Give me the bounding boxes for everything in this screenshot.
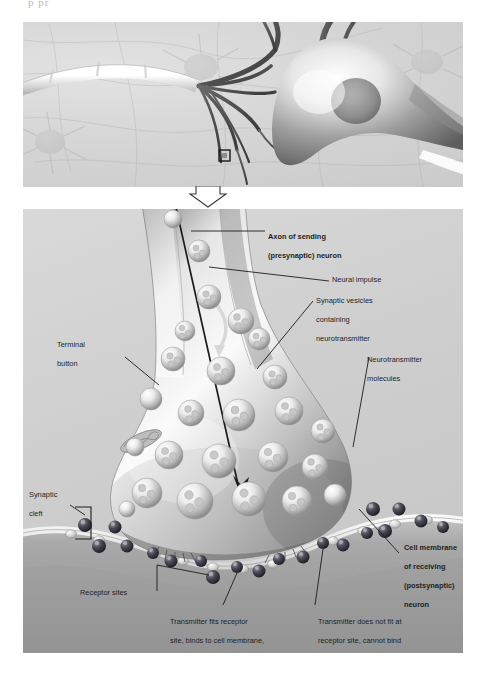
label-axon-line2: (presynaptic) neuron (268, 251, 342, 260)
label-cell-membrane-line1: Cell membrane (404, 543, 457, 552)
label-cell-membrane-line2: of receiving (404, 562, 445, 571)
label-cell-membrane-line3: (postsynaptic) (404, 581, 455, 590)
label-cell-membrane: Cell membrane of receiving (postsynaptic… (404, 534, 457, 609)
label-cell-membrane-line4: neuron (404, 600, 429, 609)
label-neurotransmitter-molecules-line1: Neurotransmitter (367, 355, 422, 364)
label-transmitter-fits-line1: Transmitter fits receptor (170, 617, 248, 626)
synapse-illustration (23, 209, 463, 653)
label-receptor-sites: Receptor sites (80, 588, 127, 597)
label-synaptic-vesicles-line1: Synaptic vesicles (316, 296, 373, 305)
label-transmitter-does-not-fit-line1: Transmitter does not fit at (318, 617, 402, 626)
label-transmitter-fits: Transmitter fits receptor site, binds to… (170, 608, 264, 653)
label-transmitter-does-not-fit-line2: receptor site, cannot bind (318, 636, 401, 645)
top-caption-fragment: p pr (28, 0, 49, 8)
label-neurotransmitter-molecules: Neurotransmitter molecules (367, 346, 422, 384)
label-terminal-button: Terminal button (57, 331, 85, 369)
panel-neuron-overview (23, 22, 463, 187)
dendrite-branches (199, 22, 285, 184)
panel-synapse-detail: Axon of sending (presynaptic) neuron Neu… (23, 209, 463, 653)
label-axon: Axon of sending (presynaptic) neuron (268, 223, 342, 261)
label-transmitter-fits-line2: site, binds to cell membrane, (170, 636, 264, 645)
label-neurotransmitter-molecules-line2: molecules (367, 374, 400, 383)
label-axon-line1: Axon of sending (268, 232, 326, 241)
label-terminal-button-line1: Terminal (57, 340, 85, 349)
label-synaptic-cleft-line1: Synaptic (29, 490, 57, 499)
label-synaptic-vesicles-line2: containing (316, 315, 350, 324)
label-transmitter-does-not-fit: Transmitter does not fit at receptor sit… (318, 608, 402, 653)
label-terminal-button-line2: button (57, 359, 78, 368)
label-synaptic-vesicles: Synaptic vesicles containing neurotransm… (316, 287, 373, 343)
label-synaptic-cleft-line2: cleft (29, 509, 43, 518)
myelin-sheath (23, 62, 199, 96)
label-synaptic-vesicles-line3: neurotransmitter (316, 334, 370, 343)
magnification-arrow (188, 186, 228, 208)
figure-root: p pr (0, 0, 485, 688)
label-synaptic-cleft: Synaptic cleft (29, 481, 57, 519)
label-neural-impulse: Neural impulse (332, 275, 381, 284)
main-neuron-illustration (23, 22, 463, 187)
